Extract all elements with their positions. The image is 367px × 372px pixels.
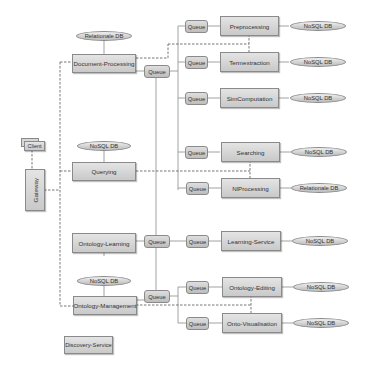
queue-label: Queue	[148, 69, 165, 75]
service-label: NlProcessing	[232, 185, 268, 192]
db-label: Relationale DB	[85, 33, 124, 39]
db-label: NoSQL DB	[304, 95, 332, 101]
service-label: Searching	[237, 149, 265, 156]
querying-db[interactable]: NoSQL DB	[77, 141, 131, 151]
document-processing-node[interactable]: Document-Processing	[72, 54, 136, 73]
db-label: NoSQL DB	[307, 320, 335, 326]
queue-label: Queue	[188, 24, 205, 30]
service-label: Ontology-Management	[74, 302, 137, 309]
onto-visualisation-node[interactable]: Onto-Visualisation	[222, 313, 282, 333]
queue-label: Queue	[189, 239, 206, 245]
service-label: Document-Processing	[74, 60, 135, 67]
service-label: Discovery-Service	[65, 342, 112, 348]
db-label: NoSQL DB	[304, 59, 332, 65]
learning-service-db[interactable]: NoSQL DB	[292, 236, 348, 246]
ontology-learning-queue[interactable]: Queue	[144, 235, 170, 248]
ontology-editing-queue[interactable]: Queue	[186, 281, 209, 294]
queue-label: Queue	[148, 294, 165, 300]
service-label: SimComputation	[227, 95, 273, 102]
db-label: NoSQL DB	[304, 23, 332, 29]
db-label: NoSQL DB	[90, 278, 118, 284]
termextraction-db[interactable]: NoSQL DB	[290, 57, 346, 67]
onto-visualisation-db[interactable]: NoSQL DB	[293, 318, 349, 328]
simcomputation-db[interactable]: NoSQL DB	[290, 93, 346, 103]
preprocessing-queue[interactable]: Queue	[185, 20, 208, 33]
querying-node[interactable]: Querying	[72, 162, 136, 181]
searching-queue[interactable]: Queue	[185, 146, 208, 159]
discovery-service-node[interactable]: Discovery-Service	[64, 336, 113, 354]
ontology-editing-node[interactable]: Ontology-Editing	[222, 277, 282, 297]
db-label: NoSQL DB	[90, 143, 118, 149]
learning-service-node[interactable]: Learning-Service	[221, 231, 281, 251]
simcomputation-queue[interactable]: Queue	[185, 92, 208, 105]
ontology-management-db[interactable]: NoSQL DB	[77, 276, 131, 286]
ontology-management-queue[interactable]: Queue	[144, 290, 170, 303]
onto-visualisation-queue[interactable]: Queue	[186, 317, 209, 330]
learning-service-queue[interactable]: Queue	[186, 235, 209, 248]
searching-db[interactable]: NoSQL DB	[291, 147, 347, 157]
db-label: NoSQL DB	[306, 238, 334, 244]
service-label: Onto-Visualisation	[227, 320, 277, 327]
service-label: Querying	[91, 168, 116, 175]
queue-label: Queue	[188, 96, 205, 102]
nlprocessing-queue[interactable]: Queue	[186, 182, 209, 195]
client-label: Client	[27, 143, 41, 149]
service-label: Ontology-Editing	[229, 284, 275, 291]
queue-label: Queue	[148, 239, 165, 245]
ontology-management-node[interactable]: Ontology-Management	[73, 296, 137, 315]
nlprocessing-node[interactable]: NlProcessing	[221, 178, 280, 198]
ontology-learning-node[interactable]: Ontology-Learning	[72, 233, 136, 253]
db-label: Relationale DB	[300, 185, 339, 191]
nlprocessing-db[interactable]: Relationale DB	[291, 183, 347, 193]
termextraction-queue[interactable]: Queue	[185, 56, 208, 69]
db-label: NoSQL DB	[307, 284, 335, 290]
service-label: Learning-Service	[228, 238, 275, 245]
ontology-editing-db[interactable]: NoSQL DB	[293, 282, 349, 292]
preprocessing-node[interactable]: Preprocessing	[220, 16, 279, 36]
service-label: Ontology-Learning	[79, 240, 130, 247]
simcomputation-node[interactable]: SimComputation	[220, 88, 279, 108]
document-processing-queue[interactable]: Queue	[144, 65, 170, 78]
service-label: Termextraction	[229, 59, 270, 66]
client-node[interactable]: Client	[24, 141, 45, 151]
gateway-label: Gateway	[32, 178, 39, 202]
queue-label: Queue	[189, 285, 206, 291]
queue-label: Queue	[188, 60, 205, 66]
db-label: NoSQL DB	[305, 149, 333, 155]
queue-label: Queue	[189, 321, 206, 327]
termextraction-node[interactable]: Termextraction	[220, 52, 279, 72]
document-processing-db[interactable]: Relationale DB	[76, 31, 132, 41]
queue-label: Queue	[188, 150, 205, 156]
gateway-node[interactable]: Gateway	[25, 169, 45, 211]
queue-label: Queue	[189, 186, 206, 192]
service-label: Preprocessing	[230, 23, 270, 30]
architecture-diagram: Client Gateway Relationale DB Document-P…	[0, 0, 367, 372]
preprocessing-db[interactable]: NoSQL DB	[290, 21, 346, 31]
searching-node[interactable]: Searching	[221, 142, 280, 162]
